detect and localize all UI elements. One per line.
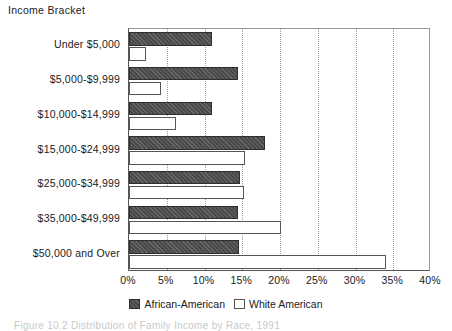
bar-white-american [129,82,161,96]
legend-item: White American [234,298,323,310]
bar-african-american [129,32,212,46]
bar-group [129,29,429,64]
x-tick-label: 35% [381,274,403,286]
plot-area [128,28,430,271]
category-label: $25,000-$34,999 [38,177,120,189]
x-tick-label: 25% [306,274,328,286]
bar-african-american [129,67,238,81]
outlined-square-icon [234,299,245,309]
income-bracket-bar-chart: Income Bracket Under $5,000$5,000-$9,999… [0,0,452,331]
bar-african-american [129,102,212,116]
bar-african-american [129,136,265,150]
bar-african-american [129,206,238,220]
category-label: $15,000-$24,999 [38,143,120,155]
bar-white-american [129,255,386,269]
x-axis-tick-labels: 0%5%10%15%20%25%30%35%40% [0,274,452,290]
filled-square-icon [129,299,140,309]
bar-group [129,203,429,238]
bar-white-american [129,186,244,200]
x-tick-label: 20% [268,274,290,286]
bar-group [129,64,429,99]
legend-item: African-American [129,298,225,310]
bar-african-american [129,240,239,254]
category-label: $5,000-$9,999 [50,73,120,85]
x-tick-label: 30% [344,274,366,286]
bar-white-american [129,151,245,165]
bar-rows [129,29,429,270]
bar-group [129,237,429,272]
bar-group [129,133,429,168]
legend-label: African-American [144,298,225,310]
category-label: $35,000-$49,999 [38,212,120,224]
x-tick-label: 10% [193,274,215,286]
legend-label: White American [249,298,323,310]
category-label: $50,000 and Over [33,247,120,259]
x-tick-label: 0% [120,274,136,286]
bar-group [129,168,429,203]
figure-caption: Figure 10.2 Distribution of Family Incom… [14,320,280,331]
category-label: Under $5,000 [54,38,120,50]
bar-african-american [129,171,240,185]
x-tick-label: 5% [158,274,174,286]
category-axis-labels: Under $5,000$5,000-$9,999$10,000-$14,999… [0,28,124,271]
x-tick-label: 15% [230,274,252,286]
chart-legend: African-AmericanWhite American [0,298,452,310]
x-tick-label: 40% [419,274,441,286]
bar-white-american [129,117,176,131]
bar-white-american [129,47,146,61]
bar-group [129,98,429,133]
bar-white-american [129,221,281,235]
category-label: $10,000-$14,999 [38,108,120,120]
chart-axis-title: Income Bracket [8,4,85,16]
